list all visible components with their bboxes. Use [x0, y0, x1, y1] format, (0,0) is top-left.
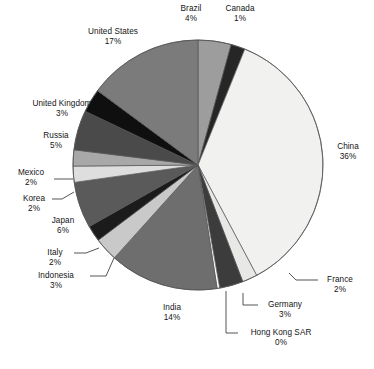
pie-label-indonesia-percent: 3%	[27, 281, 85, 291]
pie-label-korea-name: Korea	[13, 194, 55, 204]
pie-label-italy-percent: 2%	[37, 258, 73, 268]
pie-label-brazil-percent: 4%	[168, 14, 214, 24]
pie-label-italy-name: Italy	[37, 248, 73, 258]
pie-label-united-states: United States 17%	[75, 27, 151, 47]
pie-chart-figure: Brazil 4% Canada 1% China 36% France 2% …	[0, 0, 374, 369]
pie-label-mexico-name: Mexico	[8, 168, 54, 178]
pie-label-france-name: France	[318, 275, 362, 285]
pie-label-china-percent: 36%	[327, 152, 369, 162]
pie-label-mexico-percent: 2%	[8, 178, 54, 188]
pie-label-japan: Japan 6%	[42, 216, 84, 236]
pie-label-korea: Korea 2%	[13, 194, 55, 214]
leader-line-indonesia	[90, 258, 114, 276]
pie-label-japan-name: Japan	[42, 216, 84, 226]
leader-line-germany	[243, 293, 258, 305]
pie-label-italy: Italy 2%	[37, 248, 73, 268]
pie-slice-group	[73, 40, 323, 290]
pie-label-indonesia-name: Indonesia	[27, 271, 85, 281]
pie-label-france: France 2%	[318, 275, 362, 295]
pie-label-hongkong-percent: 0%	[242, 338, 320, 348]
pie-label-germany-name: Germany	[259, 300, 311, 310]
pie-label-korea-percent: 2%	[13, 204, 55, 214]
leader-line-hongkong	[226, 291, 238, 333]
pie-label-indonesia: Indonesia 3%	[27, 271, 85, 291]
leader-line-france	[289, 273, 318, 280]
pie-label-united-kingdom-name: United Kingdom	[19, 99, 105, 109]
pie-label-united-kingdom: United Kingdom 3%	[19, 99, 105, 119]
pie-label-mexico: Mexico 2%	[8, 168, 54, 188]
pie-label-france-percent: 2%	[318, 285, 362, 295]
pie-label-germany: Germany 3%	[259, 300, 311, 320]
pie-label-hongkong: Hong Kong SAR 0%	[242, 328, 320, 348]
pie-label-germany-percent: 3%	[259, 310, 311, 320]
figure-caption	[0, 361, 374, 369]
leader-line-italy	[74, 248, 99, 253]
pie-label-united-states-percent: 17%	[75, 37, 151, 47]
pie-label-india-name: India	[151, 303, 193, 313]
pie-label-china-name: China	[327, 142, 369, 152]
pie-label-india: India 14%	[151, 303, 193, 323]
pie-label-japan-percent: 6%	[42, 226, 84, 236]
leader-line-korea	[52, 192, 74, 199]
pie-label-hongkong-name: Hong Kong SAR	[242, 328, 320, 338]
pie-label-russia-name: Russia	[34, 131, 78, 141]
pie-label-canada-name: Canada	[214, 4, 266, 14]
pie-label-united-kingdom-percent: 3%	[19, 109, 105, 119]
pie-label-brazil-name: Brazil	[168, 4, 214, 14]
pie-label-china: China 36%	[327, 142, 369, 162]
pie-label-russia-percent: 5%	[34, 141, 78, 151]
pie-label-canada: Canada 1%	[214, 4, 266, 24]
pie-label-canada-percent: 1%	[214, 14, 266, 24]
pie-label-united-states-name: United States	[75, 27, 151, 37]
pie-label-russia: Russia 5%	[34, 131, 78, 151]
pie-label-india-percent: 14%	[151, 313, 193, 323]
pie-label-brazil: Brazil 4%	[168, 4, 214, 24]
